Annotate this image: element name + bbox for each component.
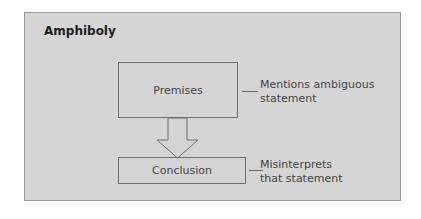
conclusion-note-line-1: Misinterprets: [260, 158, 342, 172]
conclusion-note: Misinterprets that statement: [260, 158, 342, 186]
conclusion-box: Conclusion: [118, 157, 246, 184]
down-arrow-icon: [0, 0, 421, 219]
conclusion-note-line-2: that statement: [260, 172, 342, 186]
conclusion-label: Conclusion: [152, 164, 212, 177]
